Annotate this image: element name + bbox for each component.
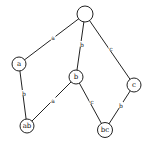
node-label: c bbox=[132, 81, 136, 89]
edge-label: b bbox=[22, 90, 26, 97]
nodes-layer: abcabbc bbox=[12, 6, 141, 138]
node-label: a bbox=[17, 60, 21, 68]
node-ab: ab bbox=[20, 119, 34, 133]
node-a: a bbox=[12, 57, 26, 71]
node-c: c bbox=[127, 78, 141, 92]
node-label: bc bbox=[101, 126, 109, 134]
lattice-diagram: abcbacb abcabbc bbox=[0, 0, 152, 144]
node-b: b bbox=[69, 70, 83, 84]
node-circle bbox=[77, 6, 93, 22]
node-bc: bc bbox=[98, 123, 113, 138]
node-label: b bbox=[74, 73, 79, 81]
node-label: ab bbox=[23, 122, 32, 130]
edge-label: a bbox=[51, 97, 55, 104]
edge-label: b bbox=[80, 41, 84, 48]
edge-label: a bbox=[51, 34, 55, 41]
node-root bbox=[77, 6, 93, 22]
edge-label: b bbox=[119, 102, 123, 109]
